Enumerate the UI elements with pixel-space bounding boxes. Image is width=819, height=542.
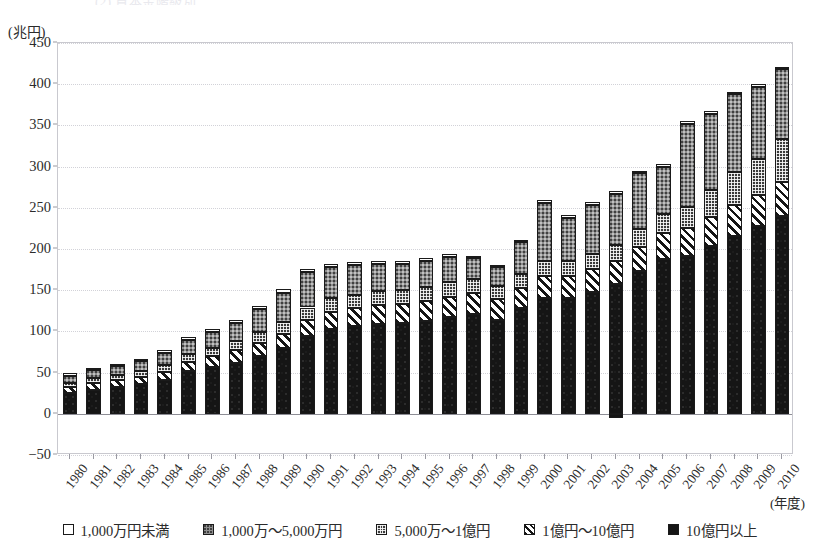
bar-segment bbox=[63, 373, 78, 375]
bar-group[interactable] bbox=[63, 43, 78, 453]
bar-segment bbox=[704, 246, 719, 414]
x-tick-mark bbox=[472, 454, 473, 459]
bar-segment bbox=[276, 334, 291, 348]
x-tick-mark bbox=[69, 454, 70, 459]
bar-segment bbox=[632, 247, 647, 272]
bar-segment bbox=[775, 139, 790, 183]
x-tick-label: 1980 bbox=[62, 461, 91, 492]
bar-segment bbox=[537, 276, 552, 297]
bar-group[interactable] bbox=[442, 43, 457, 453]
bar-group[interactable] bbox=[134, 43, 149, 453]
bar-segment bbox=[632, 229, 647, 246]
bar-group[interactable] bbox=[324, 43, 339, 453]
bar-segment bbox=[632, 173, 647, 229]
bar-group[interactable] bbox=[775, 43, 790, 453]
legend-item[interactable]: 1,000万円未満 bbox=[63, 519, 170, 540]
bar-group[interactable] bbox=[276, 43, 291, 453]
bar-group[interactable] bbox=[632, 43, 647, 453]
bar-segment bbox=[704, 217, 719, 246]
bar-group[interactable] bbox=[656, 43, 671, 453]
bar-group[interactable] bbox=[252, 43, 267, 453]
bar-segment bbox=[181, 340, 196, 354]
bar-segment bbox=[514, 274, 529, 288]
bar-segment bbox=[300, 336, 315, 414]
bar-group[interactable] bbox=[395, 43, 410, 453]
x-tick-label: 1987 bbox=[228, 461, 257, 492]
bar-group[interactable] bbox=[561, 43, 576, 453]
bar-segment bbox=[727, 172, 742, 205]
bar-group[interactable] bbox=[229, 43, 244, 453]
bar-group[interactable] bbox=[110, 43, 125, 453]
bar-segment bbox=[300, 320, 315, 336]
bar-group[interactable] bbox=[727, 43, 742, 453]
x-tick-label: 1992 bbox=[347, 461, 376, 492]
y-tick-label: 100 bbox=[29, 322, 51, 339]
x-tick-label: 1994 bbox=[395, 461, 424, 492]
x-tick-mark bbox=[544, 454, 545, 459]
bar-segment bbox=[656, 167, 671, 215]
bar-segment bbox=[324, 264, 339, 267]
bar-segment bbox=[300, 272, 315, 307]
bar-group[interactable] bbox=[751, 43, 766, 453]
x-tick-label: 2004 bbox=[632, 461, 661, 492]
bar-group[interactable] bbox=[680, 43, 695, 453]
bar-segment bbox=[252, 356, 267, 414]
bar-group[interactable] bbox=[371, 43, 386, 453]
bar-segment bbox=[205, 329, 220, 332]
bar-group[interactable] bbox=[419, 43, 434, 453]
bar-segment bbox=[751, 195, 766, 226]
bar-group[interactable] bbox=[347, 43, 362, 453]
bar-segment bbox=[134, 384, 149, 414]
bar-group[interactable] bbox=[514, 43, 529, 453]
x-tick-label: 1982 bbox=[110, 461, 139, 492]
bar-group[interactable] bbox=[490, 43, 505, 453]
y-axis: 450400350300250200150100500−50 bbox=[0, 42, 57, 454]
x-tick-label: 2000 bbox=[537, 461, 566, 492]
x-tick-label: 2003 bbox=[608, 461, 637, 492]
bar-group[interactable] bbox=[181, 43, 196, 453]
bar-segment bbox=[276, 289, 291, 292]
bar-segment bbox=[252, 309, 267, 332]
bar-segment bbox=[442, 297, 457, 317]
x-tick-mark bbox=[401, 454, 402, 459]
bar-segment bbox=[229, 363, 244, 414]
y-tick-label: 350 bbox=[29, 116, 51, 133]
y-tick-mark bbox=[53, 42, 57, 43]
bar-segment bbox=[110, 387, 125, 414]
bar-group[interactable] bbox=[609, 43, 624, 453]
bar-group[interactable] bbox=[585, 43, 600, 453]
bar-segment bbox=[680, 228, 695, 255]
legend-item[interactable]: 1億円～10億円 bbox=[524, 519, 634, 540]
bar-group[interactable] bbox=[157, 43, 172, 453]
bar-segment bbox=[442, 257, 457, 282]
x-tick-label: 1998 bbox=[490, 461, 519, 492]
bar-group[interactable] bbox=[466, 43, 481, 453]
bar-segment bbox=[300, 269, 315, 272]
legend-item[interactable]: 10億円以上 bbox=[668, 519, 757, 540]
bar-group[interactable] bbox=[86, 43, 101, 453]
bar-segment bbox=[395, 290, 410, 304]
bar-segment bbox=[442, 254, 457, 257]
legend-item[interactable]: 5,000万～1億円 bbox=[376, 519, 490, 540]
bar-segment bbox=[727, 92, 742, 94]
bar-segment bbox=[537, 200, 552, 202]
bar-group[interactable] bbox=[537, 43, 552, 453]
legend-item-label: 1,000万～5,000万円 bbox=[221, 519, 342, 540]
y-tick-mark bbox=[53, 412, 57, 413]
bar-segment bbox=[63, 387, 78, 393]
bar-group[interactable] bbox=[205, 43, 220, 453]
legend-item[interactable]: 1,000万～5,000万円 bbox=[203, 519, 342, 540]
x-tick-mark bbox=[140, 454, 141, 459]
bar-segment bbox=[656, 233, 671, 259]
bar-segment bbox=[347, 295, 362, 308]
bar-segment bbox=[585, 269, 600, 292]
bar-segment bbox=[585, 202, 600, 204]
bar-segment bbox=[252, 343, 267, 356]
bar-segment bbox=[395, 304, 410, 323]
legend-swatch-gray-dotted bbox=[203, 524, 214, 535]
bar-group[interactable] bbox=[300, 43, 315, 453]
x-tick-label: 1985 bbox=[181, 461, 210, 492]
bar-segment bbox=[347, 262, 362, 265]
bar-group[interactable] bbox=[704, 43, 719, 453]
bar-segment bbox=[181, 337, 196, 340]
